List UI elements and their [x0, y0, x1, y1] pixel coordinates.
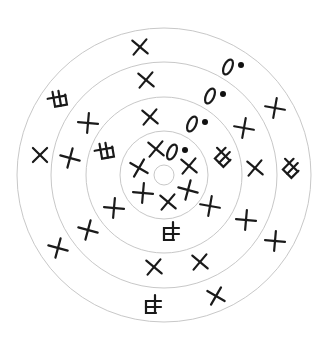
cross-mark-icon [264, 230, 286, 252]
cross-mark-icon [77, 112, 99, 134]
zero-dot-icon [165, 143, 188, 161]
ring-4 [154, 165, 174, 185]
target-diagram [0, 0, 330, 339]
cross-mark-icon [263, 96, 286, 119]
box-glyph-icon [94, 142, 114, 160]
cross-mark-icon [26, 141, 54, 169]
cross-mark-icon [76, 218, 100, 242]
ring-0 [17, 28, 311, 322]
cross-mark-icon [176, 178, 200, 202]
cross-mark-icon [232, 116, 255, 139]
cross-mark-icon [132, 182, 154, 204]
cross-mark-icon [132, 66, 160, 94]
zero-dot-icon [185, 115, 208, 133]
cross-mark-icon [126, 33, 154, 61]
zero-dot-icon [203, 87, 226, 105]
box-glyph-icon [279, 155, 302, 178]
cross-mark-icon [58, 146, 82, 170]
cross-mark-icon [140, 253, 168, 281]
cross-marks [26, 33, 287, 310]
cross-mark-icon [235, 209, 257, 231]
cross-mark-icon [186, 248, 214, 276]
box-glyph-icon [47, 90, 67, 108]
cross-mark-icon [241, 154, 269, 182]
cross-mark-icon [175, 152, 203, 180]
cross-mark-icon [136, 103, 164, 131]
cross-mark-icon [202, 282, 229, 309]
box-glyph-icon [211, 144, 234, 167]
cross-mark-icon [125, 154, 152, 181]
box-glyph-icon [164, 222, 179, 240]
ring-1 [51, 62, 277, 288]
cross-mark-icon [154, 188, 182, 216]
cross-mark-icon [46, 236, 70, 260]
concentric-rings [17, 28, 311, 322]
cross-mark-icon [142, 135, 170, 163]
zero-dot-icon [221, 58, 244, 76]
cross-mark-icon [103, 197, 125, 219]
zero-dot-glyphs [165, 58, 244, 161]
box-glyph-icon [146, 295, 161, 313]
